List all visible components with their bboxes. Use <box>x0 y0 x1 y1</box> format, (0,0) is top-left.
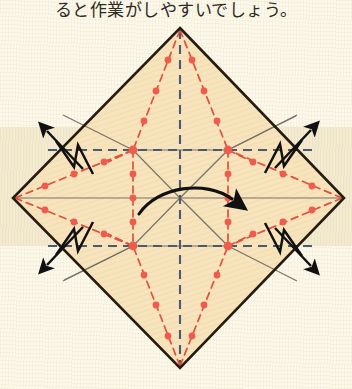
screenshot-root: ると作業がしやすいでしょう。 <box>0 0 352 389</box>
origami-diagram <box>0 0 352 389</box>
